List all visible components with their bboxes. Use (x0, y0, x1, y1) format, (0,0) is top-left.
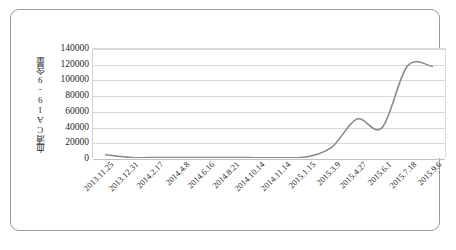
y-tick-label: 20000 (65, 137, 89, 147)
y-tick-label: 120000 (61, 59, 90, 69)
y-tick-label: 40000 (65, 122, 89, 132)
y-tick-label: 0 (84, 153, 89, 163)
series-line-chart (93, 49, 445, 158)
y-tick-label: 140000 (61, 43, 90, 53)
y-tick-label: 80000 (65, 90, 89, 100)
x-tick-label: 2015.9.6 (416, 160, 443, 187)
x-axis-tick-labels: 2013.11.252013.12.312014.2.172014.4.8201… (92, 160, 446, 235)
y-tick-label: 60000 (65, 106, 89, 116)
y-axis-tick-labels: 020000400006000080000100000120000140000 (47, 43, 91, 163)
x-tick-label: 2014.2.17 (135, 160, 165, 190)
x-tick-label: 2015.7.18 (388, 160, 418, 190)
plot-area (92, 48, 446, 158)
series-line (106, 62, 433, 158)
y-tick-label: 100000 (61, 74, 90, 84)
x-tick-label: 2015.4.27 (337, 160, 367, 190)
chart-figure-frame: 血清CA19-9含量 02000040000600008000010000012… (10, 9, 440, 231)
